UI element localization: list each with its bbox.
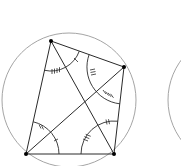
vertex-c xyxy=(112,152,116,156)
tick-marks xyxy=(39,58,114,141)
side-da xyxy=(26,41,51,154)
vertex-d xyxy=(24,152,28,156)
side-ab xyxy=(51,41,124,67)
angle-arcs xyxy=(33,51,120,154)
diagonal-bd xyxy=(26,67,124,154)
angle-arc-d xyxy=(33,122,59,154)
geometry-diagram xyxy=(0,0,181,166)
second-circle xyxy=(168,33,181,166)
diagonal-ac xyxy=(51,41,114,154)
vertex-b xyxy=(122,65,126,69)
vertices xyxy=(24,39,126,156)
vertex-a xyxy=(49,39,53,43)
circumcircle xyxy=(2,33,136,166)
quadrilateral xyxy=(26,41,124,154)
angle-arc-b xyxy=(87,55,120,104)
